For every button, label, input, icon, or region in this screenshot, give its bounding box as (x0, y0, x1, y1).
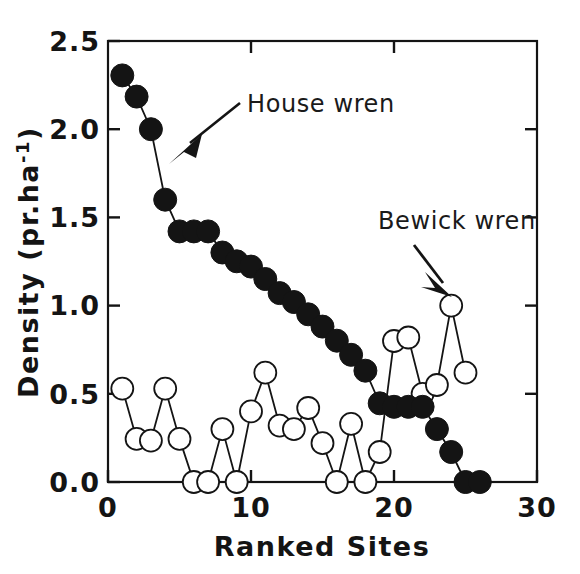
x-tick-label-0: 0 (98, 492, 118, 523)
svg-text:Density (pr.ha-1): Density (pr.ha-1) (12, 126, 44, 398)
y-tick-label-0-5: 0.5 (49, 379, 100, 410)
y-tick-label-0-0: 0.0 (49, 467, 100, 498)
y-tick-label-2-5: 2.5 (49, 26, 100, 57)
x-axis-title: Ranked Sites (214, 531, 431, 562)
y-axis-title: Density (pr.ha-1) (12, 126, 44, 398)
x-tick-label-30: 30 (517, 492, 557, 523)
y-axis-title-close: ) (13, 126, 44, 140)
y-tick-label-1-5: 1.5 (49, 202, 100, 233)
density-ranked-sites-chart: 2.5 2.0 1.5 1.0 0.5 0.0 0 10 20 30 Ranke… (0, 0, 580, 574)
y-tick-label-2-0: 2.0 (49, 114, 100, 145)
chart-figure: 2.5 2.0 1.5 1.0 0.5 0.0 0 10 20 30 Ranke… (0, 0, 580, 574)
x-tick-labels: 0 10 20 30 (98, 492, 557, 523)
y-axis-title-exponent: -1 (12, 140, 33, 163)
x-tick-label-10: 10 (231, 492, 271, 523)
y-tick-labels: 2.5 2.0 1.5 1.0 0.5 0.0 (49, 26, 100, 498)
y-tick-label-1-0: 1.0 (49, 290, 100, 321)
annotation-bewick-wren-label: Bewick wren (378, 207, 536, 235)
annotation-house-wren-label: House wren (247, 90, 395, 118)
y-axis-title-main: Density (pr.ha (13, 163, 44, 398)
x-tick-label-20: 20 (374, 492, 414, 523)
